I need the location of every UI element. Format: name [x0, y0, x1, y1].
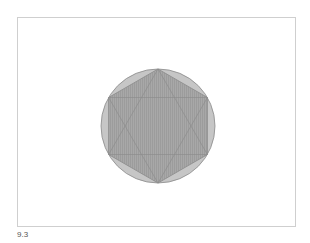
circle-hexagon-star-figure: [0, 0, 310, 243]
figure-caption: 9.3: [17, 230, 28, 240]
